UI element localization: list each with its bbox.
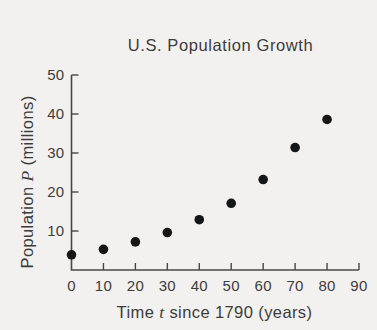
y-tick-label: 40 <box>47 105 64 122</box>
plot-area: 10203040500102030405060708090 <box>0 0 377 330</box>
data-point <box>226 199 236 209</box>
x-axis-label: Time t since 1790 (years) <box>52 302 377 323</box>
x-tick-label: 0 <box>67 277 76 294</box>
data-point <box>194 215 204 225</box>
data-point <box>131 237 141 247</box>
y-tick-label: 20 <box>47 183 64 200</box>
data-point <box>67 250 77 260</box>
data-point <box>290 143 300 153</box>
x-tick-label: 90 <box>350 277 367 294</box>
x-tick-label: 20 <box>127 277 144 294</box>
axis-spine <box>72 75 359 270</box>
x-tick-label: 80 <box>318 277 335 294</box>
data-point <box>258 175 268 185</box>
x-tick-label: 10 <box>95 277 112 294</box>
x-tick-label: 30 <box>159 277 176 294</box>
data-point <box>163 228 173 238</box>
x-axis-label-text: Time <box>117 303 160 321</box>
y-tick-label: 10 <box>47 222 64 239</box>
y-tick-label: 30 <box>47 144 64 161</box>
x-tick-label: 70 <box>286 277 303 294</box>
population-growth-chart: U.S. Population Growth Population P (mil… <box>0 0 377 330</box>
data-point <box>322 115 332 125</box>
x-tick-label: 40 <box>191 277 208 294</box>
y-tick-label: 50 <box>47 66 64 83</box>
x-tick-label: 60 <box>255 277 272 294</box>
x-axis-label-units: since 1790 (years) <box>164 303 312 321</box>
data-point <box>99 245 109 255</box>
x-tick-label: 50 <box>223 277 240 294</box>
